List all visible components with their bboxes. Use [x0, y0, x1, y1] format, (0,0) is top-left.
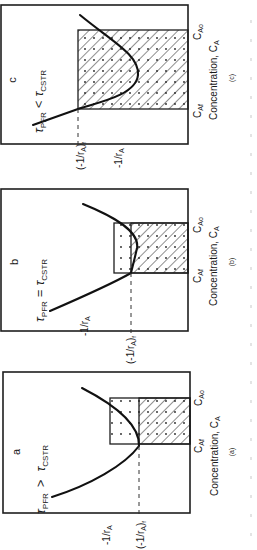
- panel-c-cstr-hatched-area: [78, 30, 188, 109]
- svg-text:-1/rA: -1/rA: [79, 316, 91, 336]
- svg-text:Concentration, CA: Concentration, CA: [208, 40, 220, 120]
- panel-b-cstr-hatched-area: [131, 223, 188, 273]
- svg-text:CAo: CAo: [193, 390, 205, 406]
- svg-text:τPFR<τCSTR: τPFR<τCSTR: [31, 70, 48, 133]
- panel-b-caf-label: CAf: [192, 269, 204, 283]
- panel-c-y-axis-label: -1/rA: [113, 148, 125, 168]
- svg-text:(-1/rA)f: (-1/rA)f: [135, 521, 147, 549]
- svg-text:CAo: CAo: [192, 24, 204, 40]
- panel-b-letter: b: [8, 259, 20, 265]
- panel-a-cao-label: CAo: [193, 390, 205, 406]
- panel-c-letter: c: [6, 77, 18, 83]
- panel-c-x-axis-label: Concentration, CA: [208, 40, 220, 120]
- panel-a-letter: a: [10, 448, 22, 455]
- panel-c-cao-label: CAo: [192, 24, 204, 40]
- svg-text:CAf: CAf: [192, 104, 204, 118]
- panel-a: a τPFR>τCSTR CAf CAo Concentration, CA (…: [3, 372, 236, 549]
- panel-a-cstr-hatched-area: [139, 398, 190, 444]
- reactor-comparison-figure: c τPFR<τCSTR CAf CAo Concentration, CA (…: [0, 0, 257, 550]
- panel-b-caption: (b): [228, 258, 236, 267]
- svg-text:Concentration, CA: Concentration, CA: [208, 226, 220, 306]
- panel-a-caf-label: CAf: [193, 439, 205, 453]
- panel-a-y-axis-label: -1/rA: [101, 525, 113, 545]
- panel-a-caption: (a): [228, 448, 236, 457]
- svg-text:-1/rA: -1/rA: [113, 148, 125, 168]
- svg-text:τPFR>τCSTR: τPFR>τCSTR: [33, 445, 50, 514]
- svg-text:Concentration, CA: Concentration, CA: [209, 416, 221, 496]
- panel-b: b τPFR=τCSTR CAf CAo Concentration, CA (…: [1, 189, 236, 364]
- panel-b-y-axis-label: -1/rA: [79, 316, 91, 336]
- panel-c-caf-label: CAf: [192, 104, 204, 118]
- panel-b-x-axis-label: Concentration, CA: [208, 226, 220, 306]
- svg-text:CAf: CAf: [193, 439, 205, 453]
- svg-text:(-1/rA)f: (-1/rA)f: [125, 336, 137, 364]
- panel-b-relation: τPFR=τCSTR: [32, 259, 49, 322]
- svg-text:-1/rA: -1/rA: [101, 525, 113, 545]
- svg-text:(-1/rA)f: (-1/rA)f: [75, 142, 87, 170]
- svg-text:τPFR=τCSTR: τPFR=τCSTR: [32, 259, 49, 322]
- panel-c-y-final-label: (-1/rA)f: [75, 142, 87, 170]
- panel-c: c τPFR<τCSTR CAf CAo Concentration, CA (…: [1, 5, 236, 170]
- panel-a-relation: τPFR>τCSTR: [33, 445, 50, 514]
- svg-text:CAo: CAo: [192, 217, 204, 233]
- svg-text:CAf: CAf: [192, 269, 204, 283]
- panel-a-y-final-label: (-1/rA)f: [135, 521, 147, 549]
- panel-b-cao-label: CAo: [192, 217, 204, 233]
- panel-c-relation: τPFR<τCSTR: [31, 70, 48, 133]
- panel-c-caption: (c): [228, 74, 236, 82]
- panel-a-x-axis-label: Concentration, CA: [209, 416, 221, 496]
- panel-b-y-final-label: (-1/rA)f: [125, 336, 137, 364]
